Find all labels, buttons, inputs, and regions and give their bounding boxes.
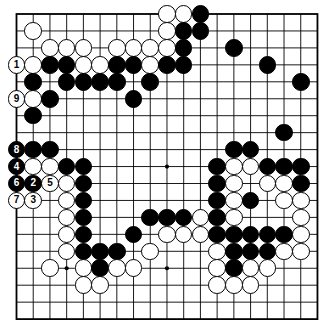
stone-black[interactable] [208,175,226,193]
stone-white[interactable] [108,39,126,57]
stone-black[interactable] [108,56,126,74]
stone-black[interactable] [259,158,277,176]
numbered-stone-5[interactable]: 5 [41,175,59,193]
stone-black[interactable] [292,175,310,193]
stone-black[interactable] [192,5,210,23]
stone-white[interactable] [242,259,260,277]
stone-black[interactable] [108,73,126,91]
stone-black[interactable] [225,141,243,159]
stone-white[interactable] [75,39,93,57]
stone-black[interactable] [24,141,42,159]
stone-black[interactable] [192,22,210,40]
stone-white[interactable] [24,158,42,176]
stone-white[interactable] [58,209,76,227]
stone-black[interactable] [75,175,93,193]
stone-black[interactable] [75,243,93,261]
stone-black[interactable] [175,39,193,57]
stone-white[interactable] [242,276,260,294]
stone-white[interactable] [91,276,109,294]
stone-black[interactable] [292,158,310,176]
stone-white[interactable] [58,39,76,57]
stone-black[interactable] [259,243,277,261]
stone-black[interactable] [75,192,93,210]
stone-white[interactable] [141,39,159,57]
stone-white[interactable] [75,276,93,294]
stone-white[interactable] [275,243,293,261]
stone-black[interactable] [175,56,193,74]
stone-black[interactable] [259,56,277,74]
stone-black[interactable] [259,226,277,244]
stone-white[interactable] [292,192,310,210]
stone-black[interactable] [91,243,109,261]
stone-black[interactable] [275,124,293,142]
stone-white[interactable] [108,259,126,277]
numbered-stone-6[interactable]: 6 [8,175,26,193]
stone-black[interactable] [208,192,226,210]
stone-white[interactable] [225,276,243,294]
stone-white[interactable] [292,209,310,227]
stone-black[interactable] [158,56,176,74]
stone-black[interactable] [41,56,59,74]
stone-black[interactable] [24,107,42,125]
stone-white[interactable] [275,175,293,193]
numbered-stone-7[interactable]: 7 [8,192,26,210]
stone-white[interactable] [75,259,93,277]
stone-black[interactable] [58,158,76,176]
stone-black[interactable] [242,243,260,261]
stone-white[interactable] [58,243,76,261]
numbered-stone-8[interactable]: 8 [8,141,26,159]
stone-white[interactable] [24,22,42,40]
stone-black[interactable] [58,56,76,74]
numbered-stone-1[interactable]: 1 [8,56,26,74]
stone-white[interactable] [41,158,59,176]
stone-white[interactable] [58,175,76,193]
stone-black[interactable] [292,73,310,91]
stone-black[interactable] [225,39,243,57]
stone-black[interactable] [75,209,93,227]
stone-white[interactable] [225,209,243,227]
stone-black[interactable] [58,73,76,91]
stone-black[interactable] [41,90,59,108]
stone-black[interactable] [141,209,159,227]
stone-white[interactable] [141,243,159,261]
stone-black[interactable] [242,226,260,244]
stone-black[interactable] [208,226,226,244]
stone-black[interactable] [108,243,126,261]
stone-white[interactable] [24,90,42,108]
stone-black[interactable] [75,226,93,244]
stone-black[interactable] [91,259,109,277]
stone-black[interactable] [75,73,93,91]
stone-white[interactable] [225,192,243,210]
stone-white[interactable] [41,259,59,277]
numbered-stone-2[interactable]: 2 [24,175,42,193]
numbered-stone-4[interactable]: 4 [8,158,26,176]
stone-white[interactable] [208,276,226,294]
stone-black[interactable] [275,158,293,176]
stone-black[interactable] [75,158,93,176]
stone-black[interactable] [158,209,176,227]
stone-black[interactable] [41,141,59,159]
stone-white[interactable] [259,175,277,193]
stone-white[interactable] [41,39,59,57]
stone-white[interactable] [208,259,226,277]
stone-white[interactable] [242,158,260,176]
numbered-stone-9[interactable]: 9 [8,90,26,108]
stone-white[interactable] [225,158,243,176]
stone-white[interactable] [141,56,159,74]
stone-white[interactable] [158,39,176,57]
stone-black[interactable] [225,243,243,261]
stone-black[interactable] [225,226,243,244]
stone-white[interactable] [158,226,176,244]
stone-white[interactable] [208,243,226,261]
stone-black[interactable] [91,73,109,91]
stone-black[interactable] [125,90,143,108]
stone-white[interactable] [75,56,93,74]
stone-white[interactable] [125,39,143,57]
stone-black[interactable] [225,259,243,277]
stone-white[interactable] [125,259,143,277]
stone-white[interactable] [24,56,42,74]
stone-white[interactable] [58,192,76,210]
stone-white[interactable] [175,226,193,244]
stone-black[interactable] [242,192,260,210]
stone-white[interactable] [259,259,277,277]
